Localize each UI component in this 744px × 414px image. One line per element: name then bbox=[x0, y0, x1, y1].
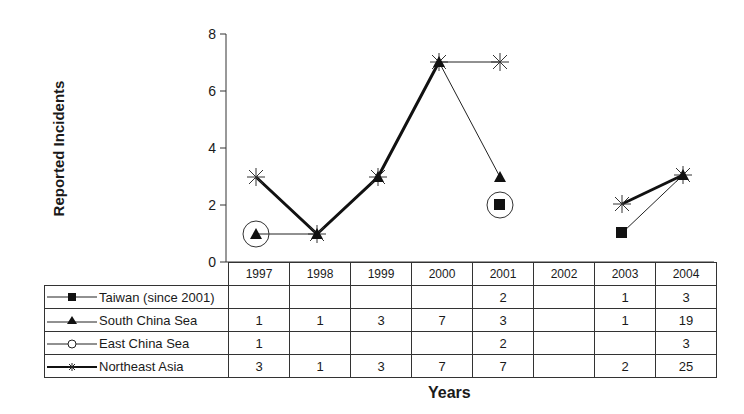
year-header: 2002 bbox=[534, 263, 595, 286]
table-cell: 3 bbox=[656, 286, 717, 309]
asterisk-marker-icon bbox=[47, 360, 97, 372]
table-cell: 3 bbox=[351, 309, 412, 332]
x-axis-label: Years bbox=[428, 384, 471, 402]
table-cell: 1 bbox=[229, 332, 290, 355]
table-cell: 2 bbox=[595, 355, 656, 378]
y-tick-label: 4 bbox=[196, 140, 216, 156]
table-row: South China Sea 1 1 3 7 3 1 19 bbox=[45, 309, 717, 332]
triangle-marker-icon bbox=[47, 314, 97, 326]
table-cell bbox=[595, 332, 656, 355]
table-row: East China Sea 1 2 3 bbox=[45, 332, 717, 355]
table-cell bbox=[290, 286, 351, 309]
y-axis-label: Reported Incidents bbox=[50, 69, 67, 229]
table-header-row: 1997 1998 1999 2000 2001 2002 2003 2004 bbox=[45, 263, 717, 286]
table-cell bbox=[534, 355, 595, 378]
table-cell: 7 bbox=[412, 355, 473, 378]
table-cell: 25 bbox=[656, 355, 717, 378]
y-tick-label: 2 bbox=[196, 197, 216, 213]
y-tick-label: 8 bbox=[196, 26, 216, 42]
series-thin-lines bbox=[256, 62, 683, 234]
table-corner bbox=[45, 263, 229, 286]
legend-label: Northeast Asia bbox=[99, 359, 184, 374]
legend-label: South China Sea bbox=[99, 313, 197, 328]
table-cell: 1 bbox=[595, 309, 656, 332]
legend-northeast-asia: Northeast Asia bbox=[45, 355, 229, 378]
table-cell: 7 bbox=[412, 309, 473, 332]
data-table: 1997 1998 1999 2000 2001 2002 2003 2004 … bbox=[44, 262, 717, 378]
table-cell bbox=[351, 332, 412, 355]
legend-label: East China Sea bbox=[99, 336, 189, 351]
circle-marker-icon bbox=[47, 337, 97, 349]
year-header: 1998 bbox=[290, 263, 351, 286]
table-cell bbox=[534, 332, 595, 355]
year-header: 2000 bbox=[412, 263, 473, 286]
east-china-sea-markers bbox=[243, 192, 513, 247]
year-header: 1999 bbox=[351, 263, 412, 286]
table-cell: 2 bbox=[473, 286, 534, 309]
year-header: 2003 bbox=[595, 263, 656, 286]
year-header: 2001 bbox=[473, 263, 534, 286]
table-cell: 3 bbox=[473, 309, 534, 332]
square-marker-icon bbox=[47, 291, 97, 303]
legend-east-china-sea: East China Sea bbox=[45, 332, 229, 355]
table-cell: 3 bbox=[656, 332, 717, 355]
series-northeast-asia-line bbox=[256, 62, 683, 234]
table-cell: 1 bbox=[595, 286, 656, 309]
table-cell bbox=[351, 286, 412, 309]
year-header: 1997 bbox=[229, 263, 290, 286]
table-cell bbox=[412, 332, 473, 355]
table-cell: 1 bbox=[290, 355, 351, 378]
table-cell: 19 bbox=[656, 309, 717, 332]
table-cell bbox=[229, 286, 290, 309]
table-cell bbox=[534, 286, 595, 309]
table-cell: 7 bbox=[473, 355, 534, 378]
year-header: 2004 bbox=[656, 263, 717, 286]
table-cell bbox=[290, 332, 351, 355]
y-ticks bbox=[220, 34, 226, 262]
taiwan-markers bbox=[494, 199, 627, 238]
legend-south-china-sea: South China Sea bbox=[45, 309, 229, 332]
legend-taiwan: Taiwan (since 2001) bbox=[45, 286, 229, 309]
table-cell: 1 bbox=[229, 309, 290, 332]
table-cell: 2 bbox=[473, 332, 534, 355]
table-cell bbox=[412, 286, 473, 309]
table-row: Northeast Asia 3 1 3 7 7 2 25 bbox=[45, 355, 717, 378]
table-cell: 3 bbox=[351, 355, 412, 378]
south-china-sea-markers bbox=[250, 56, 689, 239]
y-tick-label: 6 bbox=[196, 83, 216, 99]
table-row: Taiwan (since 2001) 2 1 3 bbox=[45, 286, 717, 309]
table-cell: 3 bbox=[229, 355, 290, 378]
table-cell bbox=[534, 309, 595, 332]
table-cell: 1 bbox=[290, 309, 351, 332]
legend-label: Taiwan (since 2001) bbox=[99, 290, 215, 305]
northeast-asia-markers bbox=[247, 53, 692, 243]
